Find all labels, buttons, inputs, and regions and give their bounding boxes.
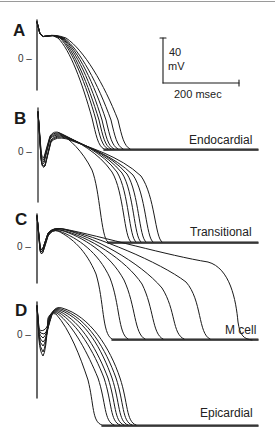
epicardial-label: Epicardial — [200, 407, 253, 419]
panel-c-zero-mark: 0 – — [17, 242, 31, 252]
transitional-label: Transitional — [190, 226, 252, 238]
scale-mv-value: 40 — [169, 47, 181, 58]
panel-c-label: C — [15, 211, 27, 228]
scale-time-label: 200 msec — [174, 89, 222, 100]
endocardial-label: Endocardial — [189, 134, 252, 146]
panel-d-zero-mark: 0 – — [17, 330, 31, 340]
panel-a-zero-mark: 0 – — [18, 54, 32, 64]
panel-b-traces — [38, 108, 258, 243]
panel-a-traces — [37, 20, 258, 150]
traces-plot — [0, 0, 275, 443]
scale-mv-unit: mV — [168, 61, 185, 72]
panel-d-label: D — [15, 302, 27, 319]
action-potential-figure: A B C D 0 – 0 – 0 – 0 – Endocardial Tran… — [0, 0, 275, 443]
panel-a-label: A — [13, 22, 25, 39]
m-cell-label: M cell — [225, 324, 256, 336]
panel-b-zero-mark: 0 – — [18, 147, 32, 157]
panel-b-label: B — [14, 110, 26, 127]
